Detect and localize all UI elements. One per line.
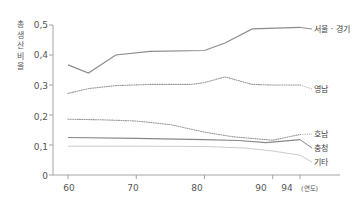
chart-figure: 총 생 산 비 율 0,5 0,4 0,3 0,2 0,1 0 60 70 80… [0, 0, 354, 208]
series-line-1 [68, 77, 300, 94]
series-leader-4 [300, 155, 312, 162]
series-leader-0 [300, 27, 312, 29]
series-line-4 [68, 146, 300, 155]
footer-strip [186, 197, 352, 207]
series-line-2 [68, 119, 300, 140]
series-leader-3 [300, 140, 312, 148]
series-leader-1 [300, 85, 312, 89]
series-line-0 [68, 27, 300, 73]
chart-plot-area [0, 0, 354, 208]
axis-lines [53, 25, 340, 175]
series-leader-2 [300, 134, 312, 135]
